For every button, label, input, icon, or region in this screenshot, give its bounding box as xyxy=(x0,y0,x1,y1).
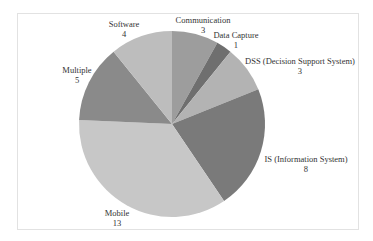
label-data-capture: Data Capture1 xyxy=(213,30,258,50)
label-dss: DSS (Decision Support System)3 xyxy=(245,56,355,76)
label-software: Software4 xyxy=(109,19,140,39)
label-multiple: Multiple5 xyxy=(62,65,91,85)
pie-chart xyxy=(0,0,373,241)
label-mobile: Mobile13 xyxy=(105,208,130,228)
label-is: IS (Information System)8 xyxy=(264,154,347,174)
